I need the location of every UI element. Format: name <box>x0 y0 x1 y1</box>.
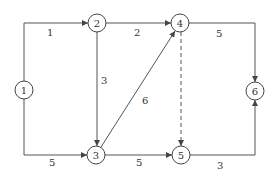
edge-label-1-3: 5 <box>49 157 55 168</box>
node-6: 6 <box>246 82 264 100</box>
node-1: 1 <box>15 81 33 99</box>
edge-1-2 <box>24 23 88 81</box>
node-3: 3 <box>87 146 105 164</box>
svg-text:2: 2 <box>94 18 100 29</box>
edge-5-6 <box>190 100 255 155</box>
node-5: 5 <box>172 146 190 164</box>
edge-label-3-5: 5 <box>136 157 142 168</box>
svg-text:4: 4 <box>177 18 183 29</box>
edge-label-3-4: 6 <box>142 95 148 106</box>
network-diagram: 1 5 3 2 6 5 5 3 1 2 3 4 5 6 <box>0 0 278 182</box>
edge-label-2-4: 2 <box>134 27 140 38</box>
svg-text:5: 5 <box>178 150 184 161</box>
node-4: 4 <box>171 14 189 32</box>
edge-label-1-2: 1 <box>47 27 53 38</box>
edge-1-3 <box>24 99 87 155</box>
node-2: 2 <box>88 14 106 32</box>
edge-label-5-6: 3 <box>217 160 223 171</box>
edge-label-4-6: 5 <box>216 28 222 39</box>
edge-3-4 <box>101 31 175 147</box>
edge-label-2-3: 3 <box>101 75 107 86</box>
svg-text:1: 1 <box>21 85 27 96</box>
svg-text:6: 6 <box>252 86 258 97</box>
svg-text:3: 3 <box>93 150 99 161</box>
